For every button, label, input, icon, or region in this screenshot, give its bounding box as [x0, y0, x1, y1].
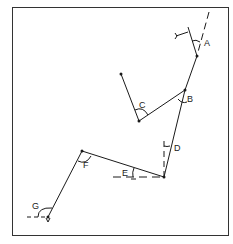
angle-arc-e — [133, 168, 134, 177]
station-a — [196, 55, 199, 58]
station-c-tail — [120, 73, 123, 76]
station-g — [47, 216, 50, 219]
traverse-diagram: A B C D E F G — [0, 0, 233, 244]
leg-f-g — [48, 151, 82, 217]
station-f — [81, 150, 84, 153]
station-d — [163, 176, 166, 179]
label-a: A — [204, 38, 210, 48]
leg-a-b — [185, 56, 197, 90]
leg-c-tail — [121, 74, 139, 121]
diagram-frame — [13, 8, 229, 236]
arrow-marker-g — [46, 218, 50, 222]
backsight-tick-a — [176, 32, 188, 36]
leg-b-d — [164, 90, 185, 177]
label-g: G — [32, 201, 39, 211]
angle-arc-a — [192, 40, 200, 42]
label-f: F — [83, 160, 89, 170]
label-c: C — [139, 100, 146, 110]
station-c — [138, 120, 141, 123]
label-d: D — [174, 143, 181, 153]
leg-b-c — [139, 90, 185, 121]
station-b — [184, 89, 187, 92]
angle-arc-d — [164, 146, 170, 147]
label-b: B — [187, 94, 193, 104]
backsight-line-a — [188, 27, 197, 56]
label-e: E — [122, 168, 128, 178]
